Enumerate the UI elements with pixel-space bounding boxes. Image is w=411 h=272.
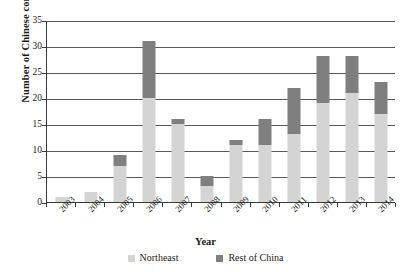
bar-segment[interactable] [230,145,243,202]
bar-segment[interactable] [375,114,388,202]
legend-label: Northeast [140,253,179,263]
bar-slot [280,21,309,202]
bar-segment[interactable] [288,88,301,135]
bar-segment[interactable] [142,98,155,202]
bar-segment[interactable] [317,56,330,103]
bar-segment[interactable] [259,145,272,202]
legend-item[interactable]: Rest of China [216,253,283,263]
bar-segment[interactable] [171,124,184,202]
bar-group [47,21,395,202]
bar-slot [367,21,396,202]
bar-segment[interactable] [259,119,272,145]
bar-slot [163,21,192,202]
legend-item[interactable]: Northeast [128,253,179,263]
y-axis-tick-label: 25 [22,68,42,77]
bar-slot [338,21,367,202]
y-axis-tick-label: 35 [22,16,42,25]
y-axis-tick-label: 10 [22,146,42,155]
bar-segment[interactable] [346,56,359,92]
bar-slot [134,21,163,202]
bar-segment[interactable] [113,155,126,165]
y-axis-tick-label: 30 [22,42,42,51]
bar-segment[interactable] [171,119,184,124]
bar-slot [309,21,338,202]
bar-segment[interactable] [200,176,213,186]
bar-slot [105,21,134,202]
y-axis-tick-label: 0 [22,198,42,207]
bar-slot [192,21,221,202]
plot-area [46,21,395,203]
bar-segment[interactable] [375,82,388,113]
bar-segment[interactable] [288,134,301,202]
y-axis-title-container: Number of Chinese companies [0,15,20,205]
bar-slot [47,21,76,202]
x-axis-tick-mark [395,203,396,207]
y-axis-tick-labels: 05101520253035 [18,21,42,203]
chart-legend: NortheastRest of China [0,250,411,266]
bar-segment[interactable] [346,93,359,202]
bar-slot [76,21,105,202]
x-axis-title: Year [0,236,411,247]
x-axis-tick-labels: 2003200420052006200720082009201020112012… [46,205,395,239]
bar-slot [222,21,251,202]
bar-slot [251,21,280,202]
y-axis-tick-label: 20 [22,94,42,103]
stacked-bar-chart: Number of Chinese companies 051015202530… [0,0,411,272]
bar-segment[interactable] [317,103,330,202]
y-axis-tick-label: 15 [22,120,42,129]
y-axis-tick-label: 5 [22,172,42,181]
legend-label: Rest of China [228,253,283,263]
bar-segment[interactable] [142,41,155,98]
bar-segment[interactable] [230,140,243,145]
legend-swatch-icon [216,255,223,262]
legend-swatch-icon [128,255,135,262]
